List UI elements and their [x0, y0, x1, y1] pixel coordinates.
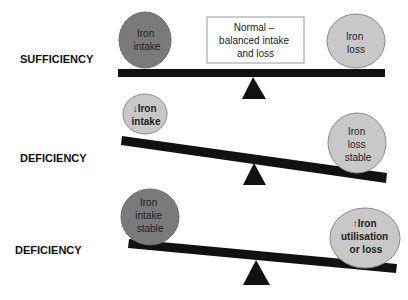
reduced-iron-intake-weight — [123, 94, 167, 134]
fulcrum-triangle — [243, 163, 266, 185]
scale-deficiency-high-loss: DEFICIENCY Iron intake stable ↑Iron util… — [15, 189, 400, 285]
iron-balance-diagram: SUFFICIENCY Iron intake Normal – balance… — [0, 0, 408, 300]
scale-deficiency-low-intake: DEFICIENCY ↓Iron intake Iron loss stable — [20, 94, 387, 185]
fulcrum-triangle — [243, 260, 270, 285]
balance-beam — [118, 69, 385, 77]
row-label-deficiency-2: DEFICIENCY — [15, 244, 82, 256]
iron-intake-weight — [119, 12, 171, 68]
row-label-sufficiency: SUFFICIENCY — [20, 53, 94, 65]
fulcrum-triangle — [242, 77, 266, 99]
iron-loss-stable-label: Iron loss stable — [345, 126, 372, 163]
scale-sufficiency: SUFFICIENCY Iron intake Normal – balance… — [20, 12, 385, 99]
row-label-deficiency-1: DEFICIENCY — [20, 152, 87, 164]
